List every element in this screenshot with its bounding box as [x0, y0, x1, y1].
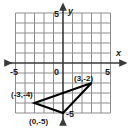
vertex-label-a: (-3,-4) — [11, 90, 33, 99]
y-tick-neg5: -5 — [66, 109, 74, 119]
origin-label: 0 — [54, 67, 59, 77]
x-axis-label: x — [115, 48, 122, 58]
x-tick-pos5: 5 — [105, 67, 110, 77]
y-tick-pos5: 5 — [54, 9, 59, 19]
coordinate-plane-figure: x y -5 5 0 5 -5 (-3,-4) (0,-5) (3,-2) — [0, 0, 132, 128]
vertex-label-b: (0,-5) — [29, 117, 48, 126]
y-axis-label: y — [67, 6, 74, 16]
vertex-label-c: (3,-2) — [74, 74, 93, 83]
graph-canvas: x y -5 5 0 5 -5 (-3,-4) (0,-5) (3,-2) — [0, 0, 132, 128]
x-tick-neg5: -5 — [10, 67, 18, 77]
